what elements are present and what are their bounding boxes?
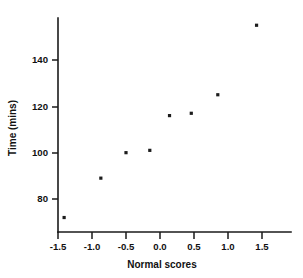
data-point [168, 114, 171, 117]
x-axis-title: Normal scores [127, 259, 197, 270]
x-tick-label: 0.0 [153, 241, 166, 252]
y-tick-label: 80 [37, 193, 48, 204]
data-point [99, 177, 102, 180]
y-axis-ticks: 140 120 100 80 [32, 54, 58, 204]
data-point [190, 112, 193, 115]
x-tick-label: 1.5 [255, 241, 269, 252]
x-axis-ticks: -1.5 -1.0 -0.5 0.0 0.5 1.0 1.5 [50, 232, 270, 252]
data-point [124, 151, 127, 154]
x-tick-label: -1.5 [50, 241, 67, 252]
x-tick-label: 1.0 [221, 241, 234, 252]
y-axis-title: Time (mins) [7, 100, 18, 156]
plot-canvas: 140 120 100 80 -1.5 -1.0 -0.5 0.0 0.5 1.… [0, 0, 303, 278]
y-tick-label: 100 [32, 147, 48, 158]
y-tick-label: 120 [32, 101, 48, 112]
data-point [63, 216, 66, 219]
scatter-plot-figure: 140 120 100 80 -1.5 -1.0 -0.5 0.0 0.5 1.… [0, 0, 303, 278]
data-point [148, 149, 151, 152]
y-tick-label: 140 [32, 54, 48, 65]
data-points-layer [63, 24, 259, 219]
x-tick-label: -0.5 [118, 241, 135, 252]
data-point [255, 24, 258, 27]
x-tick-label: -1.0 [84, 241, 101, 252]
data-point [216, 93, 219, 96]
x-tick-label: 0.5 [187, 241, 201, 252]
